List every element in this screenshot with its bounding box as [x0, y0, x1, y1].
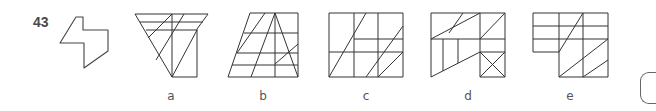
option-e-figure[interactable]	[533, 13, 608, 77]
option-e-label: e	[566, 89, 573, 103]
option-b-figure[interactable]	[228, 13, 298, 77]
prompt-shape	[60, 17, 108, 68]
option-d-label: d	[464, 89, 472, 103]
answer-box-bracket	[640, 72, 656, 104]
option-c-label: c	[363, 89, 370, 103]
option-d-figure[interactable]	[431, 13, 505, 77]
option-b-label: b	[259, 89, 267, 103]
option-c-figure[interactable]	[329, 13, 403, 77]
option-a-label: a	[167, 89, 174, 103]
option-a-figure[interactable]	[135, 14, 208, 77]
